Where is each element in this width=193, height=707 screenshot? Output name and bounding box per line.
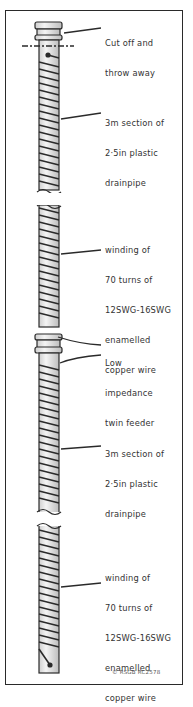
label-line: Low [105,358,154,368]
label-line: winding of [105,245,171,255]
label-pipe-upper: 3m section of 2·5in plastic drainpipe [105,98,164,198]
label-line: 3m section of [105,118,164,128]
label-line: copper wire [105,693,171,703]
label-line: 12SWG-16SWG [105,633,171,643]
top-coupler [35,22,62,40]
copyright-credit: © RSGB RC2578 [112,669,160,675]
leader-lines [58,28,101,587]
label-line: impedance [105,388,154,398]
label-line: 2·5in plastic [105,479,164,489]
label-line: 70 turns of [105,275,171,285]
label-line: Cut off and [105,38,155,48]
label-line: 12SWG-16SWG [105,305,171,315]
label-line: 3m section of [105,449,164,459]
label-line: drainpipe [105,509,164,519]
label-line: throw away [105,68,155,78]
label-cut-off: Cut off and throw away [105,18,155,88]
label-line: winding of [105,573,171,583]
label-line: drainpipe [105,178,164,188]
label-pipe-lower: 3m section of 2·5in plastic drainpipe [105,429,164,529]
centre-coupler [35,334,62,353]
label-line: 2·5in plastic [105,148,164,158]
label-line: 70 turns of [105,603,171,613]
label-feeder: Low impedance twin feeder [105,338,154,438]
label-line: twin feeder [105,418,154,428]
label-winding-lower: winding of 70 turns of 12SWG-16SWG ename… [105,553,171,707]
